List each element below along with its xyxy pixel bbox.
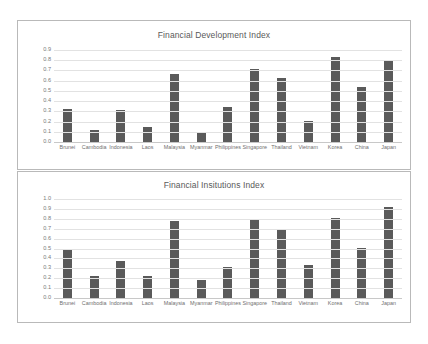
- gridline: [54, 229, 402, 230]
- bar: [357, 248, 366, 298]
- x-axis-tick-label: Singapore: [241, 301, 268, 306]
- gridline: [54, 101, 402, 102]
- y-axis-tick-label: 1.0: [43, 196, 51, 202]
- gridline: [54, 50, 402, 51]
- x-axis-tick-label: Korea: [322, 301, 349, 306]
- bar-slot: [54, 50, 81, 142]
- x-axis-tick-label: China: [348, 145, 375, 150]
- y-axis-tick-label: 0.1: [43, 285, 51, 291]
- plot-area: 1.00.90.80.70.60.50.40.30.20.10.0: [54, 199, 402, 298]
- x-axis-tick-label: Indonesia: [108, 301, 135, 306]
- gridline: [54, 219, 402, 220]
- chart-panel-financial-development-index: Financial Development Index 0.90.80.70.6…: [17, 20, 411, 170]
- x-axis-tick-label: Myanmar: [188, 301, 215, 306]
- x-axis-tick-label: Laos: [134, 301, 161, 306]
- chart-panel-financial-insitutions-index: Financial Insitutions Index 1.00.90.80.7…: [17, 171, 411, 323]
- x-axis-tick-label: China: [348, 301, 375, 306]
- x-axis-tick-label: Thailand: [268, 145, 295, 150]
- gridline: [54, 132, 402, 133]
- gridline: [54, 249, 402, 250]
- x-axis-tick-label: Thailand: [268, 301, 295, 306]
- y-axis-tick-label: 0.4: [43, 98, 51, 104]
- bar: [304, 265, 313, 298]
- bar-slot: [81, 50, 108, 142]
- y-axis-tick-label: 0.4: [43, 256, 51, 262]
- y-axis-tick-label: 0.8: [43, 216, 51, 222]
- x-axis-tick-label: Korea: [322, 145, 349, 150]
- gridline: [54, 142, 402, 143]
- bar: [170, 221, 179, 298]
- x-axis-tick-label: Vietnam: [295, 145, 322, 150]
- gridline: [54, 258, 402, 259]
- chart-title: Financial Development Index: [18, 30, 410, 40]
- bar: [197, 133, 206, 142]
- gridline: [54, 288, 402, 289]
- y-axis-tick-label: 0.3: [43, 266, 51, 272]
- bar-slot: [295, 50, 322, 142]
- x-axis-tick-label: Cambodia: [81, 145, 108, 150]
- x-axis-tick-label: Japan: [375, 145, 402, 150]
- bar: [63, 109, 72, 142]
- y-axis-tick-label: 0.7: [43, 226, 51, 232]
- bar-slot: [322, 50, 349, 142]
- bar: [223, 267, 232, 298]
- x-axis-tick-label: Cambodia: [81, 301, 108, 306]
- y-axis-tick-label: 0.3: [43, 109, 51, 115]
- bar-slot: [188, 50, 215, 142]
- x-axis-tick-label: Philippines: [215, 301, 242, 306]
- gridline: [54, 298, 402, 299]
- x-axis-tick-label: Vietnam: [295, 301, 322, 306]
- x-axis-tick-label: Malaysia: [161, 301, 188, 306]
- gridline: [54, 70, 402, 71]
- chart-title: Financial Insitutions Index: [18, 180, 410, 190]
- figure-page: Financial Development Index 0.90.80.70.6…: [0, 0, 428, 344]
- y-axis-tick-label: 0.0: [43, 295, 51, 301]
- bar-slot: [108, 50, 135, 142]
- y-axis-tick-label: 0.9: [43, 206, 51, 212]
- bar: [384, 207, 393, 298]
- gridline: [54, 60, 402, 61]
- bar-slot: [375, 50, 402, 142]
- x-axis-tick-label: Malaysia: [161, 145, 188, 150]
- y-axis-tick-label: 0.5: [43, 246, 51, 252]
- y-axis-tick-label: 0.6: [43, 236, 51, 242]
- y-axis-tick-label: 0.1: [43, 129, 51, 135]
- x-axis-tick-label: Philippines: [215, 145, 242, 150]
- x-axis-tick-label: Indonesia: [108, 145, 135, 150]
- x-axis-tick-label: Japan: [375, 301, 402, 306]
- gridline: [54, 239, 402, 240]
- bar: [197, 280, 206, 298]
- gridline: [54, 209, 402, 210]
- gridline: [54, 111, 402, 112]
- bar-slot: [268, 50, 295, 142]
- gridline: [54, 268, 402, 269]
- x-axis-labels: BruneiCambodiaIndonesiaLaosMalaysiaMyanm…: [54, 301, 402, 306]
- bar-slot: [134, 50, 161, 142]
- y-axis-tick-label: 0.6: [43, 78, 51, 84]
- x-axis-labels: BruneiCambodiaIndonesiaLaosMalaysiaMyanm…: [54, 145, 402, 150]
- bar-slot: [241, 50, 268, 142]
- x-axis-tick-label: Singapore: [241, 145, 268, 150]
- x-axis-tick-label: Brunei: [54, 301, 81, 306]
- bar-slot: [161, 50, 188, 142]
- y-axis-tick-label: 0.2: [43, 275, 51, 281]
- x-axis-tick-label: Myanmar: [188, 145, 215, 150]
- x-axis-tick-label: Laos: [134, 145, 161, 150]
- plot-area: 0.90.80.70.60.50.40.30.20.10.0: [54, 50, 402, 142]
- y-axis-tick-label: 0.7: [43, 68, 51, 74]
- gridline: [54, 199, 402, 200]
- bar: [116, 110, 125, 142]
- bar: [143, 127, 152, 142]
- gridline: [54, 278, 402, 279]
- bar-slot: [348, 50, 375, 142]
- bar: [223, 107, 232, 142]
- gridline: [54, 91, 402, 92]
- y-axis-tick-label: 0.2: [43, 119, 51, 125]
- y-axis-tick-label: 0.5: [43, 88, 51, 94]
- gridline: [54, 122, 402, 123]
- bar: [116, 261, 125, 298]
- y-axis-tick-label: 0.9: [43, 47, 51, 53]
- gridline: [54, 81, 402, 82]
- bar: [357, 87, 366, 142]
- x-axis-tick-label: Brunei: [54, 145, 81, 150]
